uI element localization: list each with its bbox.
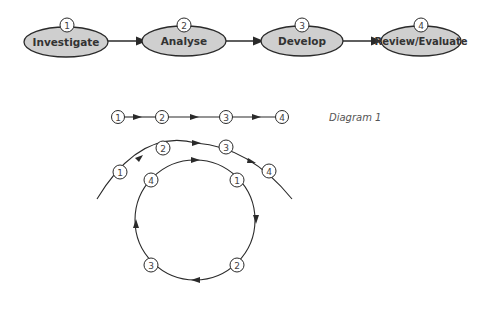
- stage-analyse: 2 Analyse: [142, 18, 226, 56]
- stage-number: 1: [64, 21, 70, 31]
- linear-node-1: 1: [112, 111, 125, 124]
- process-flow: 1 Investigate 2 Analyse 3 Develop 4 Revi…: [24, 18, 468, 57]
- svg-text:2: 2: [159, 113, 165, 123]
- stage-label: Analyse: [161, 35, 208, 47]
- outer-node-3: 3: [219, 140, 233, 154]
- inner-node-2: 2: [230, 258, 244, 272]
- svg-text:2: 2: [234, 261, 240, 271]
- svg-text:1: 1: [115, 113, 121, 123]
- stage-label: Review/Evaluate: [374, 36, 467, 47]
- stage-review-evaluate: 4 Review/Evaluate: [374, 18, 467, 56]
- stage-label: Investigate: [33, 36, 100, 48]
- linear-node-3: 3: [220, 111, 233, 124]
- linear-node-4: 4: [276, 111, 289, 124]
- diagram-caption: Diagram 1: [329, 112, 381, 123]
- stage-investigate: 1 Investigate: [24, 18, 108, 57]
- svg-text:3: 3: [223, 113, 229, 123]
- inner-node-1: 1: [230, 173, 244, 187]
- svg-text:1: 1: [234, 176, 240, 186]
- svg-text:4: 4: [279, 113, 285, 123]
- svg-text:1: 1: [117, 168, 123, 178]
- svg-text:2: 2: [160, 144, 166, 154]
- spiral-diagram: 1 2 3 4 1 2 3 4: [97, 140, 292, 283]
- linear-diagram: 1 2 3 4 Diagram 1: [112, 111, 382, 124]
- svg-text:3: 3: [223, 143, 229, 153]
- svg-text:4: 4: [266, 167, 272, 177]
- inner-node-4: 4: [144, 173, 158, 187]
- svg-text:3: 3: [148, 261, 154, 271]
- stage-number: 2: [181, 21, 187, 31]
- outer-node-4: 4: [262, 164, 276, 178]
- stage-develop: 3 Develop: [261, 18, 343, 56]
- diagram-canvas: 1 Investigate 2 Analyse 3 Develop 4 Revi…: [0, 0, 487, 316]
- stage-number: 3: [299, 21, 305, 31]
- outer-node-2: 2: [156, 141, 170, 155]
- outer-node-1: 1: [113, 165, 127, 179]
- svg-text:4: 4: [148, 176, 154, 186]
- stage-label: Develop: [278, 35, 327, 47]
- linear-node-2: 2: [156, 111, 169, 124]
- inner-node-3: 3: [144, 258, 158, 272]
- stage-number: 4: [418, 21, 424, 31]
